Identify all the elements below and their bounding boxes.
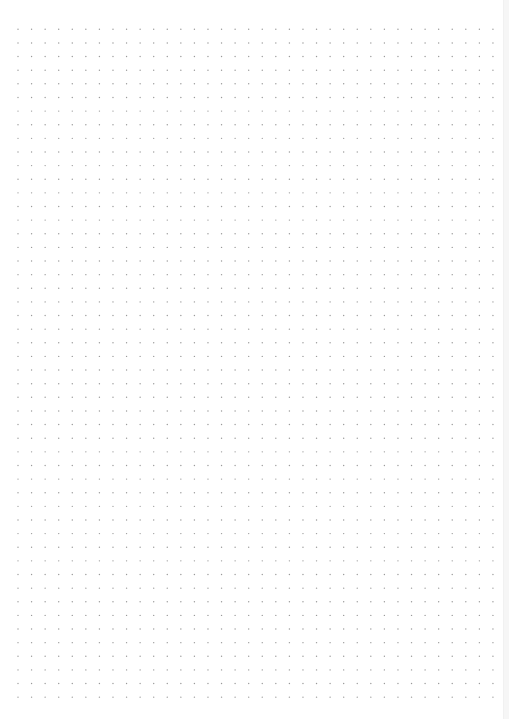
dot-grid-page bbox=[0, 0, 503, 719]
page-right-edge bbox=[503, 0, 509, 719]
dot-grid bbox=[0, 0, 503, 719]
